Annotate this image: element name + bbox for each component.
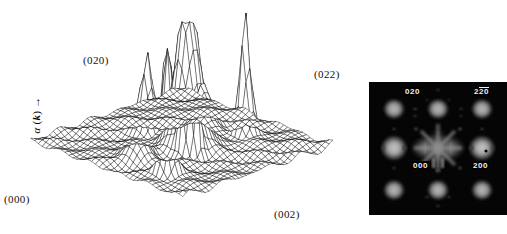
diffraction-spots — [381, 89, 495, 208]
axis-variable-k: k — [30, 115, 42, 121]
axis-arrow-icon: → — [30, 96, 42, 107]
corner-label-002: (002) — [274, 208, 300, 220]
axis-close-paren: ) — [30, 111, 42, 115]
surface-plot-wireframe — [0, 0, 365, 234]
diffraction-label-020: 020 — [404, 87, 421, 96]
y-axis-label: α ( k ) → — [25, 87, 47, 143]
corner-label-000: (000) — [4, 193, 30, 205]
diffraction-pattern-panel: 020 220 000 200 — [369, 82, 507, 215]
axis-symbol-alpha: α — [30, 128, 42, 134]
surface-plot-panel: α ( k ) → (000) (020) (022) (002) — [0, 0, 365, 234]
diffraction-label-000: 000 — [412, 161, 429, 170]
axis-open-paren: ( — [30, 121, 42, 125]
corner-label-022: (022) — [314, 68, 340, 80]
diffraction-label-2-20-overbar: 20 — [479, 87, 489, 96]
corner-label-020: (020) — [83, 54, 109, 66]
diffraction-label-200: 200 — [472, 161, 489, 170]
diffraction-pattern-image — [369, 82, 507, 215]
figure-container: α ( k ) → (000) (020) (022) (002) — [0, 0, 507, 234]
diffraction-label-2-20: 220 — [473, 87, 490, 96]
mesh-surface — [31, 13, 333, 196]
